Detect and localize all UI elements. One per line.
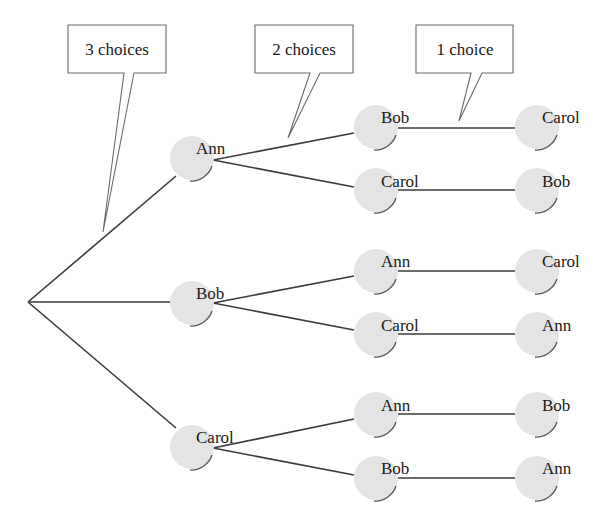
tree-diagram: Ann Bob Carol Bob Carol Ann: [0, 0, 602, 526]
edge-carol-bob: [213, 448, 354, 475]
node-level2-2: Carol: [354, 168, 419, 213]
node-label: Ann: [381, 252, 411, 271]
node-level3-4: Ann: [515, 312, 572, 357]
node-label: Bob: [196, 284, 224, 303]
edge-carol-ann: [213, 419, 354, 448]
level2-nodes: Bob Carol Ann Carol Ann Bob: [354, 105, 419, 501]
callout-3-choices: 3 choices: [68, 25, 166, 232]
node-label: Ann: [196, 139, 226, 158]
node-label: Carol: [542, 108, 580, 127]
node-label: Bob: [542, 172, 570, 191]
node-label: Carol: [381, 172, 419, 191]
edge-ann-bob: [213, 133, 354, 160]
node-level3-2: Bob: [515, 168, 570, 213]
node-level1-carol: Carol: [170, 425, 234, 470]
node-label: Bob: [381, 108, 409, 127]
node-level3-3: Carol: [515, 249, 580, 294]
node-label: Ann: [542, 459, 572, 478]
level1-nodes: Ann Bob Carol: [170, 136, 234, 470]
root-edges: [28, 176, 176, 428]
edge-root-ann: [28, 176, 176, 302]
node-label: Bob: [542, 396, 570, 415]
callout-2-choices: 2 choices: [255, 25, 353, 138]
node-level3-6: Ann: [515, 456, 572, 501]
level3-nodes: Carol Bob Carol Ann Bob Ann: [515, 105, 580, 501]
node-label: Ann: [381, 396, 411, 415]
node-level3-1: Carol: [515, 105, 580, 150]
node-level3-5: Bob: [515, 392, 570, 437]
edge-bob-carol: [213, 303, 354, 330]
callout-label: 2 choices: [272, 40, 336, 59]
node-level2-4: Carol: [354, 312, 419, 357]
edge-ann-carol: [213, 160, 354, 187]
callout-label: 1 choice: [436, 40, 493, 59]
node-label: Carol: [542, 252, 580, 271]
callout-1-choice: 1 choice: [416, 25, 513, 121]
node-label: Carol: [196, 428, 234, 447]
node-label: Bob: [381, 459, 409, 478]
edge-bob-ann: [213, 276, 354, 303]
callout-label: 3 choices: [85, 40, 149, 59]
node-level2-5: Ann: [354, 392, 411, 437]
node-label: Ann: [542, 316, 572, 335]
level1-edges: [213, 133, 354, 475]
edge-root-carol: [28, 302, 176, 428]
node-label: Carol: [381, 316, 419, 335]
